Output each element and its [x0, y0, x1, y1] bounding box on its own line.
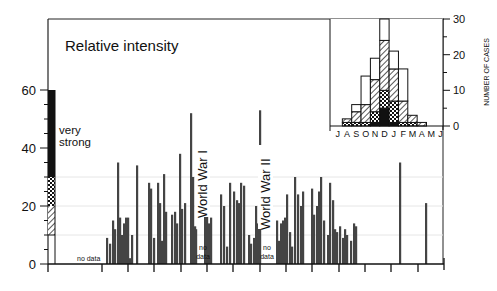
- intensity-bar: [229, 183, 231, 264]
- intensity-bar: [297, 194, 299, 264]
- inset-month-label: M: [427, 129, 435, 139]
- intensity-bar: [129, 258, 131, 264]
- intensity-bar: [165, 212, 167, 264]
- intensity-bar: [112, 221, 114, 265]
- intensity-bar: [318, 192, 320, 265]
- intensity-bar: [329, 183, 331, 264]
- inset-month-label: N: [372, 129, 379, 139]
- no-data-label-3b: data: [260, 253, 274, 260]
- intensity-bar: [255, 206, 257, 264]
- intensity-bar: [240, 183, 242, 264]
- inset-bar-segment: [352, 112, 361, 123]
- inset-bar-segment: [361, 105, 370, 123]
- intensity-bar: [250, 244, 252, 264]
- intensity-bar: [125, 218, 127, 264]
- intensity-bar: [286, 194, 288, 264]
- inset-bar-segment: [398, 69, 407, 101]
- intensity-bar: [243, 186, 245, 264]
- intensity-bar: [223, 206, 225, 264]
- inset-month-label: A: [419, 129, 425, 139]
- intensity-bar: [163, 174, 165, 264]
- intensity-bar: [425, 203, 427, 264]
- inset-bar-segment: [408, 115, 417, 122]
- inset-chart: [330, 19, 450, 131]
- intensity-bar: [131, 235, 133, 264]
- inset-month-label: J: [392, 129, 397, 139]
- y-tick-60: 60: [22, 83, 36, 98]
- intensity-bar: [161, 241, 163, 264]
- intensity-bar: [226, 247, 228, 264]
- intensity-bar: [109, 244, 111, 264]
- intensity-bar: [311, 189, 313, 264]
- intensity-bar: [157, 183, 159, 264]
- inset-bar-segment: [370, 58, 379, 79]
- intensity-bar: [179, 154, 181, 264]
- intensity-bar: [210, 218, 212, 264]
- intensity-bar: [302, 192, 304, 265]
- intensity-bar: [294, 177, 296, 264]
- inset-bar-segment: [389, 51, 398, 69]
- no-data-label-1: no data: [77, 255, 100, 262]
- intensity-bar: [280, 223, 282, 264]
- intensity-bar: [148, 183, 150, 264]
- inset-y-tick-20: 20: [453, 49, 465, 61]
- intensity-bar: [284, 218, 286, 264]
- intensity-bar: [114, 229, 116, 264]
- inset-y-tick-30: 30: [453, 13, 465, 25]
- intensity-bar: [119, 218, 121, 264]
- inset-bar-segment: [370, 112, 379, 123]
- intensity-bar: [150, 189, 152, 264]
- intensity-bar: [176, 223, 178, 264]
- inset-month-label: O: [362, 129, 369, 139]
- inset-month-label: F: [400, 129, 406, 139]
- intensity-bar: [174, 212, 176, 264]
- intensity-bar: [123, 223, 125, 264]
- intensity-bar: [159, 203, 161, 264]
- intensity-bar: [339, 226, 341, 264]
- inset-month-label: A: [344, 129, 350, 139]
- intensity-bar: [248, 235, 250, 264]
- intensity-bar: [316, 206, 318, 264]
- intensity-bar: [346, 235, 348, 264]
- inset-y-tick-10: 10: [453, 84, 465, 96]
- ww2-label: World War II: [258, 158, 273, 230]
- inset-bar-segment: [361, 76, 370, 105]
- intensity-bar: [171, 215, 173, 264]
- legend-strong: strong: [59, 136, 91, 148]
- intensity-bar: [192, 177, 194, 264]
- intensity-bar: [332, 200, 334, 264]
- y-axis: [40, 90, 48, 264]
- intensity-bar: [184, 203, 186, 264]
- ww1-label: World War I: [195, 150, 210, 218]
- intensity-bar: [336, 232, 338, 264]
- intensity-bar: [190, 113, 192, 264]
- intensity-bar: [327, 235, 329, 264]
- inset-bar-segment: [342, 119, 351, 123]
- inset-month-labels: JASONDJFMAMJ: [335, 129, 442, 139]
- intensity-bar: [106, 238, 108, 264]
- intensity-bar: [350, 241, 352, 264]
- intensity-bar: [253, 238, 255, 264]
- inset-bar-segment: [370, 80, 379, 112]
- intensity-bar: [181, 209, 183, 264]
- intensity-bar: [353, 223, 355, 264]
- legend-very: very: [59, 124, 81, 136]
- inset-y-tick-0: 0: [453, 120, 459, 132]
- chart-canvas: 60 40 20 0 very strong Relative intensit…: [0, 0, 497, 291]
- intensity-bar: [233, 192, 235, 265]
- intensity-bar: [236, 200, 238, 264]
- intensity-bar: [121, 235, 123, 264]
- intensity-bar: [238, 203, 240, 264]
- inset-bar-segment: [398, 101, 407, 122]
- intensity-bar: [399, 163, 401, 265]
- intensity-bar: [313, 215, 315, 264]
- intensity-bar: [127, 218, 129, 264]
- inset-bar-segment: [380, 40, 389, 90]
- intensity-bar: [289, 232, 291, 264]
- intensity-bar: [117, 163, 119, 265]
- intensity-bar: [320, 177, 322, 264]
- inset-bar-segment: [380, 19, 389, 40]
- inset-y-label: NUMBER OF CASES: [483, 38, 490, 106]
- inset-month-label: J: [438, 129, 443, 139]
- no-data-label-2a: no: [199, 244, 207, 251]
